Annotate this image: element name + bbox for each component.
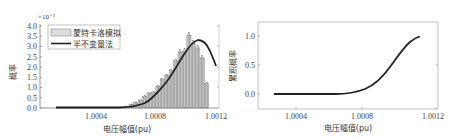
- histogram-bar: [165, 76, 166, 108]
- histogram-bar: [191, 43, 192, 108]
- right-xtick-1-0008: 1.0008: [351, 112, 373, 121]
- histogram-bar: [194, 43, 195, 108]
- histogram-bar: [200, 58, 201, 108]
- histogram-bar: [166, 74, 167, 108]
- legend: 蒙特卡洛模拟 半不变量法: [48, 25, 121, 49]
- histogram-bar: [143, 96, 144, 108]
- right-chart: 0.0 0.5 1.0 累积概率 1.0004 1.0008 1.0012 电压…: [228, 22, 444, 133]
- ytick-0: 0.0: [27, 104, 37, 113]
- ytick-2: 2.0: [27, 63, 37, 72]
- histogram-bar: [172, 71, 173, 108]
- histogram-bar: [199, 48, 200, 108]
- histogram-bar: [193, 40, 194, 108]
- histogram-bar: [138, 100, 139, 108]
- histogram-bar: [184, 49, 185, 108]
- histogram-bar: [185, 51, 186, 108]
- histogram-bar: [153, 92, 154, 108]
- histogram-bar: [160, 79, 161, 108]
- histogram-bar: [151, 92, 152, 108]
- right-xlabel: 电压幅值(pu): [324, 123, 372, 133]
- histogram-bar: [188, 32, 189, 108]
- legend-mc-label: 蒙特卡洛模拟: [73, 28, 121, 38]
- histogram-bar: [202, 56, 203, 108]
- right-frame: [258, 22, 438, 109]
- histogram-bar: [157, 85, 158, 108]
- histogram-bar: [144, 96, 145, 108]
- right-ytick-0-5: 0.5: [245, 61, 255, 70]
- right-ytick-0: 0.0: [245, 90, 255, 99]
- ytick-1-5: 1.5: [27, 73, 37, 82]
- ytick-3: 3.0: [27, 42, 37, 51]
- histogram-bar: [187, 35, 188, 108]
- histogram-bar: [206, 82, 207, 108]
- histogram-bar: [196, 48, 197, 108]
- xtick-1-0012: 1.0012: [205, 112, 227, 121]
- legend-bar-swatch: [51, 29, 71, 36]
- ytick-3-5: 3.5: [27, 32, 37, 41]
- left-xlabel: 电压幅值(pu): [103, 124, 151, 134]
- cdf-curve: [274, 37, 420, 95]
- histogram-bar: [134, 102, 135, 108]
- ytick-2-5: 2.5: [27, 53, 37, 62]
- left-ylabel: 概率: [8, 64, 18, 80]
- ytick-1: 1.0: [27, 83, 37, 92]
- histogram-bar: [203, 58, 204, 108]
- right-ytick-1: 1.0: [245, 32, 255, 41]
- y-multiplier: ×10⁻²: [38, 13, 55, 21]
- histogram-bar: [208, 83, 209, 108]
- histogram-bar: [205, 83, 206, 108]
- legend-cum-label: 半不变量法: [73, 39, 113, 49]
- xtick-1-0008: 1.0008: [144, 112, 166, 121]
- histogram-bars: [120, 32, 208, 108]
- histogram-bar: [150, 93, 151, 108]
- histogram-bar: [178, 52, 179, 108]
- histogram-bar: [182, 51, 183, 108]
- histogram-bar: [174, 61, 175, 108]
- left-chart: 0.0 0.5 1.0 1.5 2.0 2.5 3.0 3.5 4.0 ×10⁻…: [8, 13, 227, 134]
- histogram-bar: [162, 78, 163, 108]
- figure: 0.0 0.5 1.0 1.5 2.0 2.5 3.0 3.5 4.0 ×10⁻…: [0, 0, 458, 139]
- histogram-bar: [197, 45, 198, 108]
- histogram-bar: [156, 86, 157, 108]
- ytick-4: 4.0: [27, 22, 37, 31]
- right-xtick-1-0012: 1.0012: [422, 112, 444, 121]
- ytick-0-5: 0.5: [27, 94, 37, 103]
- right-ylabel: 累积概率: [228, 50, 238, 82]
- xtick-1-0004: 1.0004: [85, 112, 107, 121]
- right-xtick-1-0004: 1.0004: [285, 112, 307, 121]
- left-x-ticks: 1.0004 1.0008 1.0012: [85, 112, 227, 121]
